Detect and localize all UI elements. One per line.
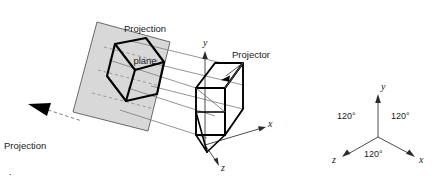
cube-inner-edges: [196, 112, 225, 152]
projection-plane-normal-label-line2: plane: [4, 173, 46, 176]
scene-axis-label-y: y: [203, 38, 207, 48]
triad-angle-bottom: 120°: [364, 150, 383, 159]
projection-plane-normal-label: Projection plane normal: [4, 120, 46, 175]
scene-axis-label-z: z: [221, 163, 225, 173]
triad-axis-label-z: z: [332, 155, 336, 165]
projection-diagram: Projection plane Projector Projection pl…: [0, 0, 441, 175]
triad-axis-label-y: y: [381, 82, 385, 92]
projector-label: Projector: [232, 50, 270, 61]
triad-angle-right: 120°: [391, 112, 410, 121]
projection-plane-label: Projection plane: [106, 3, 184, 87]
triad-angle-left: 120°: [337, 112, 356, 121]
projection-plane-label-line1: Projection: [106, 24, 184, 35]
projection-plane-normal-label-line1: Projection: [4, 141, 46, 152]
triad-axis-label-x: x: [419, 155, 423, 165]
projection-plane-label-line2: plane: [106, 56, 184, 67]
isometric-triad-axes: [348, 100, 410, 154]
scene-axis-label-x: x: [268, 119, 272, 129]
